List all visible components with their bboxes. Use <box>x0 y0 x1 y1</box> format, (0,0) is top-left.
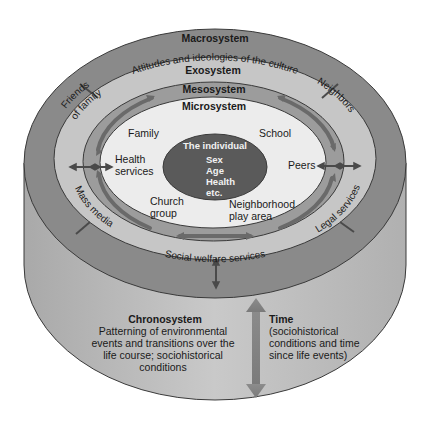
individual-attribute-sex: Sex <box>206 154 224 165</box>
mesosystem-title: Mesosystem <box>182 83 245 95</box>
individual-attribute-health: Health <box>206 176 235 187</box>
ecological-systems-diagram: Macrosystem Attitudes and ideologies of … <box>0 0 430 423</box>
chronosystem-line-3: life course; sociohistorical <box>103 349 223 361</box>
individual-attribute-etc: etc. <box>206 187 222 198</box>
time-line-3: since life events) <box>269 349 347 361</box>
microsystem-school-label: School <box>259 127 291 139</box>
time-title: Time <box>269 313 293 325</box>
microsystem-health-label-line2: services <box>115 165 154 177</box>
microsystem-church-label-line2: group <box>150 207 177 219</box>
individual-attribute-age: Age <box>206 165 224 176</box>
microsystem-family-label: Family <box>128 127 160 139</box>
chronosystem-line-1: Patterning of environmental <box>99 325 227 337</box>
chronosystem-line-2: events and transitions over the <box>91 337 234 349</box>
exosystem-title: Exosystem <box>185 64 240 76</box>
chronosystem-line-4: conditions <box>139 361 186 373</box>
microsystem-neighborhood-label-line2: play area <box>229 210 272 222</box>
microsystem-health-label-line1: Health <box>115 153 146 165</box>
time-line-2: conditions and time <box>269 337 360 349</box>
microsystem-title: Microsystem <box>182 100 246 112</box>
macrosystem-title: Macrosystem <box>181 32 248 44</box>
time-line-1: (sociohistorical <box>269 325 338 337</box>
individual-title: The individual <box>183 140 247 151</box>
chronosystem-title: Chronosystem <box>128 313 202 325</box>
microsystem-neighborhood-label-line1: Neighborhood <box>229 198 295 210</box>
microsystem-church-label-line1: Church <box>150 195 184 207</box>
microsystem-peers-label: Peers <box>288 159 315 171</box>
